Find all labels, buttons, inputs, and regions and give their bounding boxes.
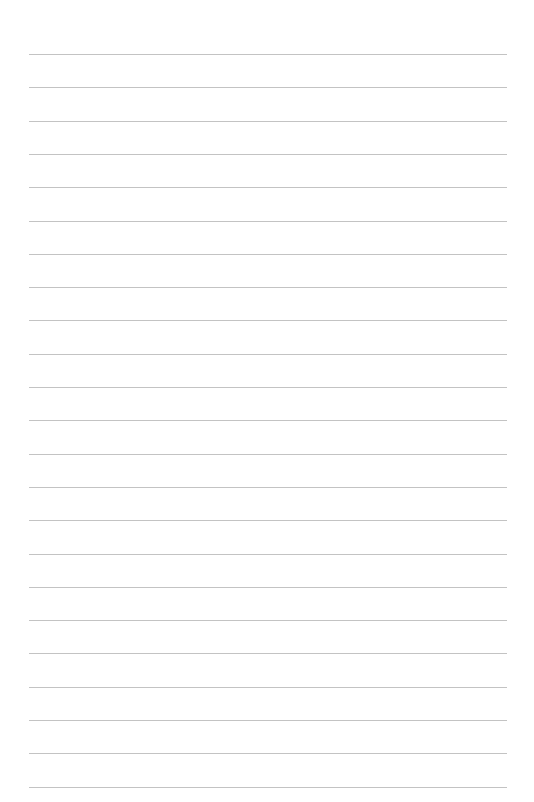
ruled-line [29, 787, 507, 788]
ruled-line [29, 554, 507, 555]
ruled-line [29, 121, 507, 122]
ruled-line [29, 287, 507, 288]
ruled-line [29, 720, 507, 721]
lined-paper-sheet [0, 0, 534, 802]
ruled-line [29, 687, 507, 688]
ruled-line [29, 520, 507, 521]
ruled-line [29, 187, 507, 188]
ruled-line [29, 154, 507, 155]
ruled-line [29, 87, 507, 88]
ruled-line [29, 320, 507, 321]
ruled-line [29, 221, 507, 222]
ruled-line [29, 587, 507, 588]
ruled-line [29, 354, 507, 355]
ruled-line [29, 54, 507, 55]
ruled-line [29, 387, 507, 388]
ruled-line [29, 254, 507, 255]
ruled-line [29, 487, 507, 488]
ruled-line [29, 620, 507, 621]
ruled-line [29, 420, 507, 421]
ruled-line [29, 653, 507, 654]
ruled-line [29, 454, 507, 455]
ruled-line [29, 753, 507, 754]
